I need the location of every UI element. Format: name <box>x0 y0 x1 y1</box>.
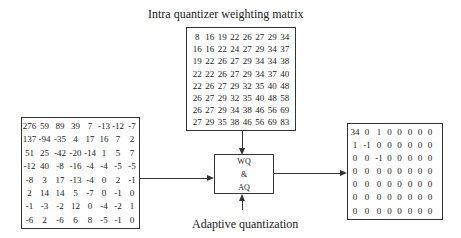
input-matrix-cell: 17 <box>83 135 97 148</box>
arrow-right-icon <box>340 170 347 176</box>
input-matrix-cell: -16 <box>68 162 83 175</box>
weighting-matrix-cell: 27 <box>229 57 242 69</box>
input-matrix-cell: 14 <box>52 189 68 202</box>
input-matrix-cell: 40 <box>37 162 52 175</box>
weighting-matrix-cell: 27 <box>229 70 242 82</box>
input-matrix-cell: -5 <box>125 162 139 175</box>
weighting-matrix-cell: 34 <box>254 57 267 69</box>
output-matrix-cell: 0 <box>394 193 405 206</box>
input-matrix-cell: -35 <box>52 135 68 148</box>
weighting-matrix-cell: 34 <box>266 57 279 69</box>
input-matrix-grid: 2765989397-13-12-7137-94-3541716725125-4… <box>22 118 139 229</box>
input-matrix-cell: 25 <box>37 149 52 162</box>
input-matrix-cell: 0 <box>97 189 111 202</box>
input-matrix-cell: -5 <box>111 162 125 175</box>
input-matrix-cell: -6 <box>22 216 37 229</box>
weighting-matrix-cell: 69 <box>266 118 279 130</box>
input-matrix-cell: 8 <box>83 216 97 229</box>
input-matrix-cell: 51 <box>22 149 37 162</box>
input-matrix-cell: 1 <box>125 202 139 215</box>
input-matrix-cell: -12 <box>22 162 37 175</box>
input-matrix-cell: 0 <box>97 176 111 189</box>
input-matrix-cell: -13 <box>68 176 83 189</box>
weighting-matrix-cell: 29 <box>241 57 254 69</box>
input-matrix-cell: 2 <box>111 176 125 189</box>
output-matrix-cell: 0 <box>361 207 373 220</box>
box-label-aq: AQ <box>215 183 273 192</box>
input-matrix-cell: 7 <box>111 135 125 148</box>
weighting-matrix-cell: 29 <box>241 70 254 82</box>
input-matrix-cell: -4 <box>97 162 111 175</box>
input-matrix-cell: 137 <box>22 135 37 148</box>
weighting-matrix-cell: 34 <box>254 70 267 82</box>
input-matrix-cell: -8 <box>22 176 37 189</box>
input-matrix-cell: 2 <box>125 135 139 148</box>
input-matrix-cell: -7 <box>83 189 97 202</box>
output-matrix-cell: 0 <box>385 207 394 220</box>
input-matrix-cell: 7 <box>125 149 139 162</box>
input-matrix-cell: -4 <box>83 176 97 189</box>
input-matrix-cell: 2 <box>37 216 52 229</box>
input-matrix-cell: -13 <box>97 122 111 135</box>
output-matrix-cell: 0 <box>394 207 405 220</box>
input-matrix-cell: -1 <box>111 216 125 229</box>
box-label-wq: WQ <box>215 157 273 166</box>
input-matrix-cell: -1 <box>125 176 139 189</box>
output-matrix-cell: 0 <box>349 207 361 220</box>
connector-input-to-box <box>140 178 210 179</box>
input-matrix-cell: -4 <box>83 162 97 175</box>
output-matrix-cell: 0 <box>415 193 425 206</box>
weighting-matrix-cell: 56 <box>254 118 267 130</box>
input-matrix-cell: 16 <box>97 135 111 148</box>
weighting-matrix-cell: 19 <box>191 57 204 69</box>
weighting-matrix-cell: 26 <box>216 57 229 69</box>
input-matrix-cell: -14 <box>83 149 97 162</box>
input-matrix-cell: -2 <box>52 202 68 215</box>
input-matrix-cell: 6 <box>68 216 83 229</box>
wq-aq-processing-box: WQ & AQ <box>214 154 274 194</box>
weighting-matrix-cell: 22 <box>191 70 204 82</box>
input-matrix-cell: 5 <box>111 149 125 162</box>
input-matrix-cell: -5 <box>97 216 111 229</box>
adaptive-quantization-title: Adaptive quantization <box>192 217 298 232</box>
input-matrix-cell: 7 <box>83 122 97 135</box>
input-matrix-cell: 12 <box>68 202 83 215</box>
input-matrix-cell: -7 <box>125 122 139 135</box>
weighting-matrix-cell: 35 <box>216 118 229 130</box>
input-matrix-cell: -2 <box>111 202 125 215</box>
output-matrix-cell: 0 <box>425 193 435 206</box>
input-matrix-cell: -1 <box>111 189 125 202</box>
output-matrix-cell: 0 <box>405 193 415 206</box>
weighting-matrix-title: Intra quantizer weighting matrix <box>148 7 304 22</box>
input-matrix-cell: 4 <box>68 135 83 148</box>
output-matrix-cell: 0 <box>405 207 415 220</box>
input-matrix-cell: 5 <box>68 189 83 202</box>
weighting-matrix-cell: 40 <box>279 70 292 82</box>
weighting-matrix-cell: 38 <box>279 57 292 69</box>
input-matrix-cell: 3 <box>37 176 52 189</box>
input-matrix-cell: 0 <box>83 202 97 215</box>
arrow-up-icon <box>239 194 245 201</box>
weighting-matrix-cell: 46 <box>241 118 254 130</box>
input-matrix-cell: -6 <box>52 216 68 229</box>
output-matrix-box: 3401000001-100000000-1000000000000000000… <box>347 123 443 220</box>
input-matrix-cell: -94 <box>37 135 52 148</box>
output-matrix-cell: 0 <box>373 207 385 220</box>
weighting-matrix-box: 8161922262729341616222427293437192226272… <box>186 27 296 131</box>
input-matrix-cell: -4 <box>97 202 111 215</box>
output-matrix-cell: 0 <box>373 193 385 206</box>
input-matrix-cell: 0 <box>125 189 139 202</box>
weighting-matrix-cell: 38 <box>229 118 242 130</box>
output-matrix-grid: 3401000001-100000000-1000000000000000000… <box>348 124 442 220</box>
weighting-matrix-grid: 8161922262729341616222427293437192226272… <box>187 28 295 131</box>
input-matrix-cell: 276 <box>22 122 37 135</box>
input-matrix-cell: -42 <box>52 149 68 162</box>
weighting-matrix-cell: 22 <box>204 70 217 82</box>
weighting-matrix-cell: 37 <box>266 70 279 82</box>
weighting-matrix-cell: 27 <box>191 118 204 130</box>
input-matrix-cell: -20 <box>68 149 83 162</box>
weighting-matrix-cell: 83 <box>279 118 292 130</box>
connector-box-to-output <box>274 173 342 174</box>
input-matrix-cell: 1 <box>97 149 111 162</box>
box-label-ampersand: & <box>215 170 273 179</box>
